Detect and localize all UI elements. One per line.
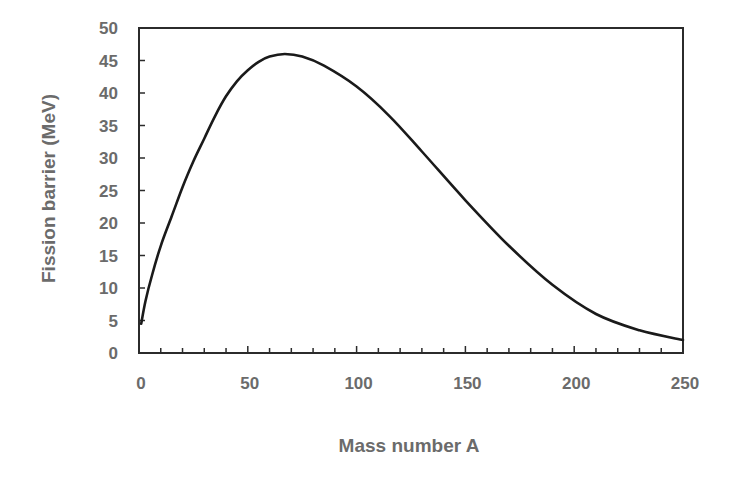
x-tick-label: 250 [671, 374, 699, 393]
data-line-fission-barrier [141, 54, 683, 340]
x-tick-label: 150 [453, 374, 481, 393]
y-tick-label: 15 [99, 247, 118, 266]
y-tick-label: 35 [99, 117, 118, 136]
x-axis-title: Mass number A [339, 435, 480, 456]
y-tick-label: 40 [99, 84, 118, 103]
x-tick-label: 100 [344, 374, 372, 393]
y-tick-label: 30 [99, 149, 118, 168]
chart: 05101520253035404550 050100150200250 Mas… [0, 0, 734, 478]
x-tick-label: 50 [240, 374, 259, 393]
y-tick-label: 25 [99, 182, 118, 201]
y-axis-title: Fission barrier (MeV) [38, 94, 59, 283]
y-tick-label: 5 [109, 312, 118, 331]
y-tick-label: 0 [109, 344, 118, 363]
x-tick-label: 0 [136, 374, 145, 393]
y-tick-label: 20 [99, 214, 118, 233]
x-tick-label: 200 [562, 374, 590, 393]
y-tick-label: 45 [99, 52, 118, 71]
y-tick-label: 50 [99, 19, 118, 38]
plot-frame [139, 28, 683, 353]
y-tick-label: 10 [99, 279, 118, 298]
